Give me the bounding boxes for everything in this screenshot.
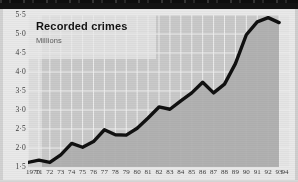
y-axis-tick-label: 3·5 bbox=[2, 86, 26, 95]
y-axis-tick-label: 5·5 bbox=[2, 10, 26, 19]
chart-figure: 5·55·04·54·03·53·02·52·01·5 Recorded cri… bbox=[0, 0, 298, 182]
x-axis-tick-label: 83 bbox=[166, 168, 173, 176]
x-axis-tick-label: 74 bbox=[68, 168, 75, 176]
y-axis-tick-label: 3·0 bbox=[2, 105, 26, 114]
y-axis-tick-label: 2·0 bbox=[2, 143, 26, 152]
x-axis-tick-label: 94 bbox=[281, 168, 288, 176]
y-axis-tick-label: 4·5 bbox=[2, 48, 26, 57]
x-axis-tick-label: 71 bbox=[35, 168, 42, 176]
x-axis-tick-label: 72 bbox=[46, 168, 53, 176]
x-axis-tick-label: 82 bbox=[155, 168, 162, 176]
y-axis-tick-label: 2·5 bbox=[2, 124, 26, 133]
y-axis-tick-label: 5·0 bbox=[2, 29, 26, 38]
x-axis-tick-label: 86 bbox=[199, 168, 206, 176]
x-axis-tick-label: 91 bbox=[254, 168, 261, 176]
scan-artifact-bar bbox=[0, 0, 298, 9]
x-axis-tick-label: 84 bbox=[177, 168, 184, 176]
x-axis-tick-label: 78 bbox=[112, 168, 119, 176]
x-axis-tick-label: 90 bbox=[243, 168, 250, 176]
y-axis-tick-label: 1·5 bbox=[2, 162, 26, 171]
x-axis-tick-label: 89 bbox=[232, 168, 239, 176]
x-axis-tick-label: 77 bbox=[101, 168, 108, 176]
x-axis-tick-label: 92 bbox=[265, 168, 272, 176]
x-axis-tick-label: 85 bbox=[188, 168, 195, 176]
x-axis-tick-label: 80 bbox=[134, 168, 141, 176]
x-axis-tick-label: 76 bbox=[90, 168, 97, 176]
figure-right-edge bbox=[295, 9, 298, 182]
x-axis: 1970717273747576777879808182838485868788… bbox=[28, 168, 290, 180]
chart-title: Recorded crimes bbox=[36, 20, 186, 33]
x-axis-tick-label: 88 bbox=[221, 168, 228, 176]
scan-artifact-speckle bbox=[0, 0, 298, 3]
x-axis-tick-label: 87 bbox=[210, 168, 217, 176]
figure-bottom-edge bbox=[0, 180, 298, 182]
x-axis-tick-label: 73 bbox=[57, 168, 64, 176]
x-axis-tick-label: 79 bbox=[123, 168, 130, 176]
y-axis: 5·55·04·54·03·53·02·52·01·5 bbox=[0, 15, 26, 167]
title-block: Recorded crimes Millions bbox=[36, 20, 186, 45]
y-axis-tick-label: 4·0 bbox=[2, 67, 26, 76]
x-axis-tick-label: 81 bbox=[144, 168, 151, 176]
x-axis-tick-label: 75 bbox=[79, 168, 86, 176]
chart-subtitle: Millions bbox=[36, 36, 186, 45]
